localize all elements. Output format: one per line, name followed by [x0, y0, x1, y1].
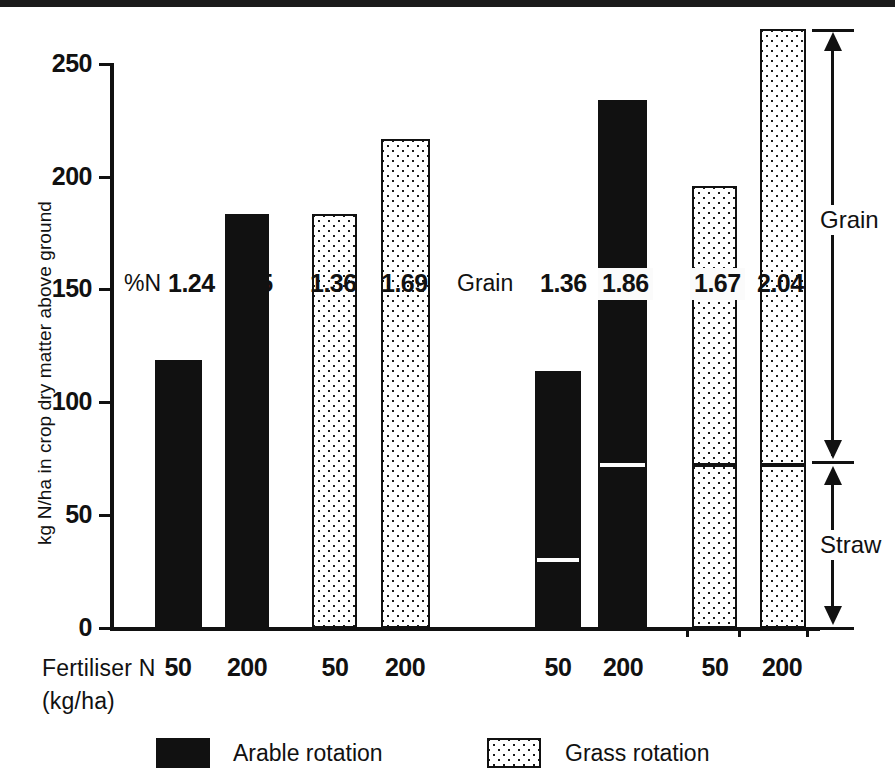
value-label-grass-50-left: 1.36 — [310, 271, 357, 296]
value-label-arable-50-right: 1.36 — [540, 271, 587, 296]
y-tick-250 — [99, 63, 112, 66]
legend-label-grass: Grass rotation — [565, 740, 709, 767]
x-label-grass-200-right: 200 — [742, 653, 822, 682]
grain-straw-divider-arable-200 — [600, 463, 645, 467]
grain-bracket-arrow-up — [824, 32, 842, 51]
grain-bracket-bottom-cap — [812, 461, 854, 464]
y-tick-50 — [99, 514, 112, 517]
straw-bracket-arrow-down — [824, 606, 842, 625]
x-tick-b — [738, 627, 741, 637]
x-label-arable-50-left: 50 — [148, 653, 208, 682]
bar-grass-200-left[interactable] — [381, 139, 430, 628]
y-tick-200 — [99, 176, 112, 179]
bar-arable-50-right[interactable] — [535, 371, 581, 628]
legend-label-arable: Arable rotation — [233, 740, 383, 767]
x-label-arable-50-right: 50 — [528, 653, 588, 682]
grain-bracket-arrow-down — [824, 440, 842, 459]
x-axis-title-line2: (kg/ha) — [42, 688, 115, 715]
value-label-arable-50-left: 1.24 — [168, 271, 215, 296]
chart-plot-area: 250 200 150 100 50 0 kg N/ha in crop dry… — [0, 0, 895, 780]
straw-bracket-label: Straw — [818, 530, 883, 560]
value-label-arable-200-left: 1.85 — [226, 271, 273, 296]
y-tick-150 — [99, 288, 112, 291]
y-tick-label-250: 250 — [30, 49, 92, 78]
grain-straw-divider-grass-200 — [760, 463, 806, 467]
y-tick-label-200: 200 — [30, 162, 92, 191]
straw-bracket-arrow-up — [824, 466, 842, 485]
grain-bracket-label: Grain — [818, 205, 881, 235]
legend-swatch-arable — [156, 738, 210, 768]
x-label-arable-200-left: 200 — [207, 653, 287, 682]
value-label-grass-200-right: 2.04 — [757, 271, 804, 296]
bar-arable-200-right[interactable] — [598, 100, 647, 628]
grain-straw-divider-arable-50 — [537, 558, 579, 562]
x-label-grass-50-left: 50 — [305, 653, 365, 682]
value-label-grass-50-right: 1.67 — [690, 268, 745, 300]
percent-n-row-label: %N — [124, 272, 161, 295]
figure-root: 250 200 150 100 50 0 kg N/ha in crop dry… — [0, 0, 895, 780]
bar-grass-200-right[interactable] — [760, 29, 806, 628]
bar-grass-50-right[interactable] — [692, 186, 737, 628]
value-label-arable-200-right: 1.86 — [598, 268, 653, 300]
y-tick-100 — [99, 401, 112, 404]
y-axis-title: kg N/ha in crop dry matter above ground — [34, 201, 56, 545]
x-axis-title-line1: Fertiliser N — [42, 655, 156, 682]
straw-bracket-bottom-cap — [812, 627, 854, 630]
x-tick-c — [806, 627, 809, 637]
y-axis-line — [110, 63, 114, 630]
grain-straw-divider-grass-50 — [692, 463, 737, 467]
x-label-grass-50-right: 50 — [685, 653, 745, 682]
x-tick-a — [686, 627, 689, 637]
grain-bracket-line — [831, 50, 834, 456]
x-label-arable-200-right: 200 — [583, 653, 663, 682]
grain-row-label: Grain — [457, 272, 513, 295]
bar-arable-50-left[interactable] — [155, 360, 202, 628]
y-tick-label-0: 0 — [30, 613, 92, 642]
legend-swatch-grass — [487, 738, 541, 768]
value-label-grass-200-left: 1.69 — [381, 271, 428, 296]
x-label-grass-200-left: 200 — [365, 653, 445, 682]
